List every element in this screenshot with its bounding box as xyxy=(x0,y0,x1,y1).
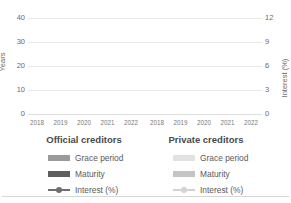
plot-region: 50 40 30 20 10 0 15 12 9 6 3 0 Years Int… xyxy=(0,0,291,128)
y-left-tick-40: 40 xyxy=(17,14,25,22)
legend-label: Grace period xyxy=(75,153,123,163)
legend-swatch-icon xyxy=(48,171,70,177)
x-tick: 2019 xyxy=(53,119,67,127)
x-tick: 2022 xyxy=(244,119,258,127)
gridline-40 xyxy=(28,18,262,19)
legend-label: Interest (%) xyxy=(75,185,118,195)
x-tick: 2018 xyxy=(30,119,44,127)
gridline-baseline xyxy=(28,114,262,115)
x-tick: 2018 xyxy=(150,119,164,127)
y-right-tick-9: 9 xyxy=(265,38,269,46)
panel-titles: Official creditors Private creditors xyxy=(0,133,291,149)
x-axis-panel-private: 2018 2019 2020 2021 2022 xyxy=(150,119,258,127)
x-tick: 2021 xyxy=(220,119,234,127)
legend-item-maturity-private[interactable]: Maturity xyxy=(147,166,277,182)
gridline-20 xyxy=(28,66,262,67)
y-right-tick-12: 12 xyxy=(265,14,273,22)
y-right-tick-0: 0 xyxy=(265,110,269,118)
panel-title-private: Private creditors xyxy=(140,133,272,146)
y-left-tick-20: 20 xyxy=(17,62,25,70)
y-right-tick-3: 3 xyxy=(265,86,269,94)
y-axis-right-title: Interest (%) xyxy=(281,56,289,100)
gridline-30 xyxy=(28,42,262,43)
x-axis-labels: 2018 2019 2020 2021 2022 2018 2019 2020 … xyxy=(0,119,291,131)
legend-item-grace-period-official[interactable]: Grace period xyxy=(22,150,152,166)
legend-line-marker-icon xyxy=(48,186,70,194)
x-tick: 2022 xyxy=(124,119,138,127)
x-tick: 2020 xyxy=(197,119,211,127)
legend-label: Interest (%) xyxy=(200,185,243,195)
x-axis-panel-official: 2018 2019 2020 2021 2022 xyxy=(30,119,138,127)
x-tick: 2021 xyxy=(100,119,114,127)
panel-title-official: Official creditors xyxy=(18,133,150,146)
legend-swatch-icon xyxy=(173,171,195,177)
bottom-divider xyxy=(2,196,289,197)
y-axis-left-title: Years xyxy=(0,47,7,77)
legend-label: Maturity xyxy=(200,169,230,179)
legend-private-creditors: Grace period Maturity Interest (%) xyxy=(147,150,277,198)
plot-area xyxy=(28,0,262,118)
gridline-10 xyxy=(28,90,262,91)
creditor-terms-chart: 50 40 30 20 10 0 15 12 9 6 3 0 Years Int… xyxy=(0,0,291,203)
legend-label: Maturity xyxy=(75,169,105,179)
y-left-tick-30: 30 xyxy=(17,38,25,46)
y-left-tick-10: 10 xyxy=(17,86,25,94)
y-axis-left-ticks: 50 40 30 20 10 0 xyxy=(6,0,25,118)
y-right-tick-6: 6 xyxy=(265,62,269,70)
x-tick: 2019 xyxy=(173,119,187,127)
legend-label: Grace period xyxy=(200,153,248,163)
x-tick: 2020 xyxy=(77,119,91,127)
y-left-tick-0: 0 xyxy=(21,110,25,118)
legend-official-creditors: Grace period Maturity Interest (%) xyxy=(22,150,152,198)
legend-item-grace-period-private[interactable]: Grace period xyxy=(147,150,277,166)
legend-line-marker-icon xyxy=(173,186,195,194)
legend-item-maturity-official[interactable]: Maturity xyxy=(22,166,152,182)
legend-swatch-icon xyxy=(173,155,195,161)
legend-swatch-icon xyxy=(48,155,70,161)
